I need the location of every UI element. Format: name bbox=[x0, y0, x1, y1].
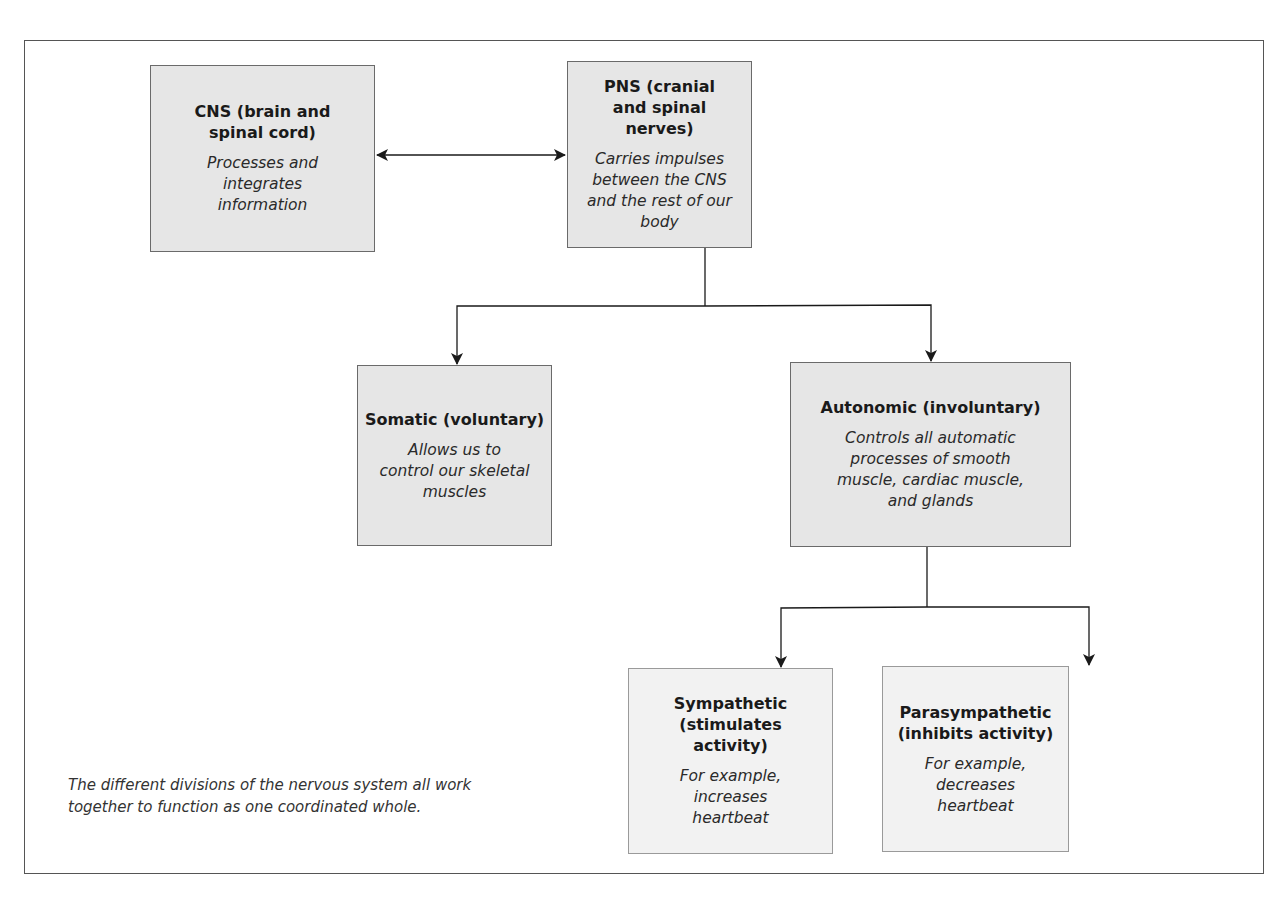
parasympathetic-description: For example, decreases heartbeat bbox=[901, 754, 1051, 817]
somatic-title: Somatic (voluntary) bbox=[365, 409, 545, 430]
pns-title: PNS (cranial and spinal nerves) bbox=[595, 76, 725, 139]
pns-to-somatic-arrow bbox=[457, 306, 705, 364]
sympathetic-title: Sympathetic (stimulates activity) bbox=[646, 693, 816, 756]
parasympathetic-title: Parasympathetic (inhibits activity) bbox=[896, 702, 1056, 744]
autonomic-to-parasympathetic-arrow bbox=[927, 607, 1089, 665]
cns-box: CNS (brain and spinal cord) Processes an… bbox=[150, 65, 375, 252]
pns-to-autonomic-arrow bbox=[705, 305, 931, 361]
figure-caption: The different divisions of the nervous s… bbox=[68, 774, 488, 818]
autonomic-box: Autonomic (involuntary) Controls all aut… bbox=[790, 362, 1071, 547]
cns-title: CNS (brain and spinal cord) bbox=[188, 101, 338, 143]
autonomic-title: Autonomic (involuntary) bbox=[801, 397, 1061, 418]
autonomic-to-sympathetic-arrow bbox=[781, 607, 927, 667]
autonomic-description: Controls all automatic processes of smoo… bbox=[823, 428, 1038, 512]
pns-box: PNS (cranial and spinal nerves) Carries … bbox=[567, 61, 752, 248]
pns-description: Carries impulses between the CNS and the… bbox=[585, 149, 735, 233]
somatic-box: Somatic (voluntary) Allows us to control… bbox=[357, 365, 552, 546]
cns-description: Processes and integrates information bbox=[178, 153, 348, 216]
sympathetic-description: For example, increases heartbeat bbox=[656, 766, 806, 829]
sympathetic-box: Sympathetic (stimulates activity) For ex… bbox=[628, 668, 833, 854]
parasympathetic-box: Parasympathetic (inhibits activity) For … bbox=[882, 666, 1069, 852]
somatic-description: Allows us to control our skeletal muscle… bbox=[380, 440, 530, 503]
